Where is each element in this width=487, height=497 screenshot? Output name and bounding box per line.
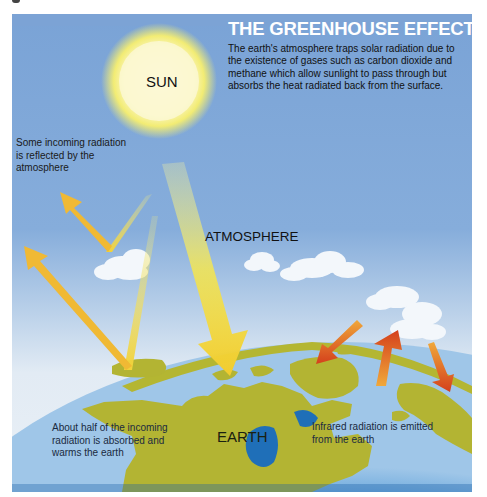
diagram-title: THE GREENHOUSE EFFECT [228,18,472,40]
earth-label: EARTH [217,428,268,445]
absorbed-radiation-label: About half of the incoming radiation is … [52,422,172,460]
infrared-radiation-label: Infrared radiation is emitted from the e… [312,421,442,446]
sun-label: SUN [146,73,178,90]
greenhouse-diagram: THE GREENHOUSE EFFECT The earth's atmosp… [12,14,472,492]
diagram-description: The earth's atmosphere traps solar radia… [228,43,468,93]
reflected-radiation-label: Some incoming radiation is reflected by … [16,137,136,175]
cropped-glyph [12,0,20,3]
atmosphere-label: ATMOSPHERE [205,229,299,244]
